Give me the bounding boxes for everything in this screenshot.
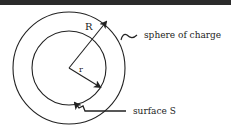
sphere-leader-squiggle [121, 34, 137, 40]
gauss-sphere-diagram: R r sphere of charge surface S [0, 0, 231, 129]
sphere-of-charge-label: sphere of charge [144, 30, 221, 40]
outer-radius-label: R [85, 21, 93, 32]
inner-radius-arrow [69, 68, 100, 87]
surface-leader-zigzag [75, 103, 126, 111]
surface-s-label: surface S [133, 106, 176, 116]
inner-radius-label: r [79, 65, 83, 74]
